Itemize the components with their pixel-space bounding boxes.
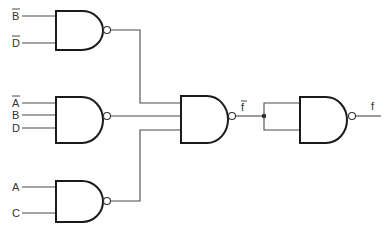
nand-body xyxy=(56,11,103,50)
nand-gate-1: B D xyxy=(12,9,181,103)
label-b: B xyxy=(12,109,19,121)
label-f: f xyxy=(371,100,375,112)
nand-gate-5: f xyxy=(262,97,381,143)
wire-fbar-to-g5 xyxy=(264,103,300,130)
inversion-bubble xyxy=(104,113,111,120)
inversion-bubble xyxy=(229,113,236,120)
wire-g3-to-g4 xyxy=(111,130,182,201)
nand-body xyxy=(56,181,103,222)
label-c: C xyxy=(12,207,20,219)
label-a-bar: A xyxy=(12,97,20,109)
label-d-bar: D xyxy=(12,37,20,49)
inversion-bubble xyxy=(349,113,356,120)
nand-body xyxy=(300,97,347,143)
nand-gate-4: f xyxy=(181,96,264,143)
label-d: D xyxy=(12,122,20,134)
label-a: A xyxy=(12,181,20,193)
inversion-bubble xyxy=(104,198,111,205)
nand-gate-3: A C xyxy=(12,130,181,222)
nand-body xyxy=(56,97,103,143)
nand-body xyxy=(181,96,228,143)
wire-g1-to-g4 xyxy=(111,30,182,103)
label-f-bar: f xyxy=(241,101,245,113)
label-b-bar: B xyxy=(12,10,19,22)
logic-circuit-diagram: B D A B D A C f xyxy=(0,0,391,233)
inversion-bubble xyxy=(104,27,111,34)
